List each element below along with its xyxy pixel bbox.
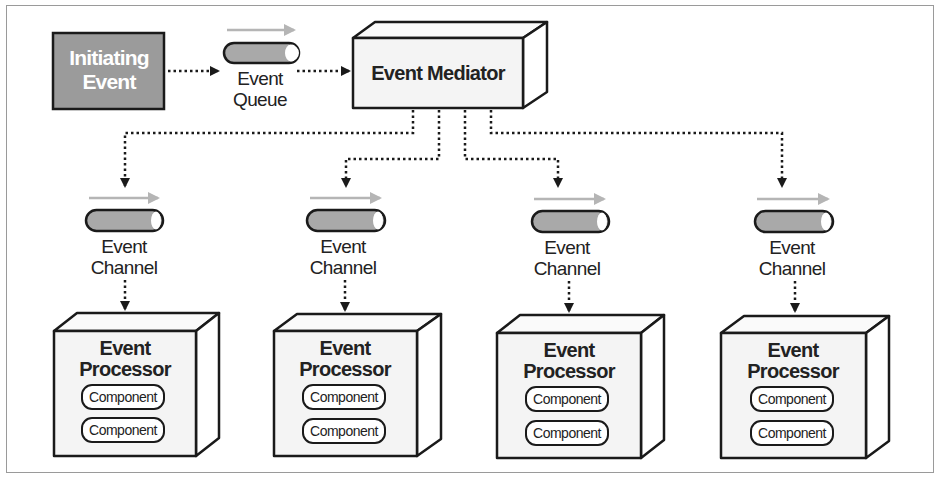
- processor-label-line1: Event: [523, 340, 615, 361]
- channel-label-line2: Channel: [310, 257, 377, 278]
- event-queue-label-line1: Event: [233, 68, 287, 89]
- event-channel-tube-3: [532, 199, 609, 232]
- event-queue-label: Event Queue: [233, 68, 287, 110]
- event-queue-label-line2: Queue: [233, 89, 287, 110]
- event-mediator-topology-diagram: Initiating Event Event Queue Event Media…: [0, 0, 940, 484]
- channel-label-line1: Event: [534, 237, 601, 258]
- component-pill: Component: [302, 418, 386, 444]
- mediator-to-channel-connectors: [125, 110, 782, 186]
- channel-label-line2: Channel: [91, 257, 158, 278]
- event-processor-label-3: Event Processor: [523, 340, 615, 382]
- component-pill: Component: [302, 384, 386, 410]
- processor-label-line2: Processor: [523, 361, 615, 382]
- initiating-event-label-line1: Initiating: [69, 46, 149, 70]
- processor-label-line1: Event: [79, 338, 171, 359]
- component-pill: Component: [525, 386, 609, 412]
- initiating-event-label: Initiating Event: [69, 46, 149, 94]
- initiating-event-label-line2: Event: [69, 70, 149, 94]
- event-channel-label-1: Event Channel: [91, 236, 158, 278]
- event-channel-label-4: Event Channel: [759, 237, 826, 279]
- processor-label-line1: Event: [747, 340, 839, 361]
- component-pill: Component: [81, 417, 165, 443]
- event-processor-label-2: Event Processor: [299, 338, 391, 380]
- channel-label-line2: Channel: [759, 258, 826, 279]
- event-channel-label-3: Event Channel: [534, 237, 601, 279]
- event-channel-tube-1: [86, 198, 163, 231]
- event-channel-tube-2: [307, 198, 385, 231]
- channel-to-processor-arrows: [125, 280, 795, 311]
- channel-label-line2: Channel: [534, 258, 601, 279]
- event-processor-label-4: Event Processor: [747, 340, 839, 382]
- channel-label-line1: Event: [310, 236, 377, 257]
- processor-label-line2: Processor: [747, 361, 839, 382]
- event-channel-label-2: Event Channel: [310, 236, 377, 278]
- event-queue-tube: [224, 30, 299, 63]
- component-pill: Component: [81, 384, 165, 410]
- processor-label-line2: Processor: [299, 359, 391, 380]
- event-mediator-label: Event Mediator: [371, 63, 505, 83]
- event-processor-label-1: Event Processor: [79, 338, 171, 380]
- event-channel-tube-4: [755, 199, 833, 232]
- processor-label-line2: Processor: [79, 359, 171, 380]
- channel-label-line1: Event: [759, 237, 826, 258]
- component-pill: Component: [525, 420, 609, 446]
- channel-label-line1: Event: [91, 236, 158, 257]
- component-pill: Component: [750, 386, 834, 412]
- processor-label-line1: Event: [299, 338, 391, 359]
- component-pill: Component: [750, 420, 834, 446]
